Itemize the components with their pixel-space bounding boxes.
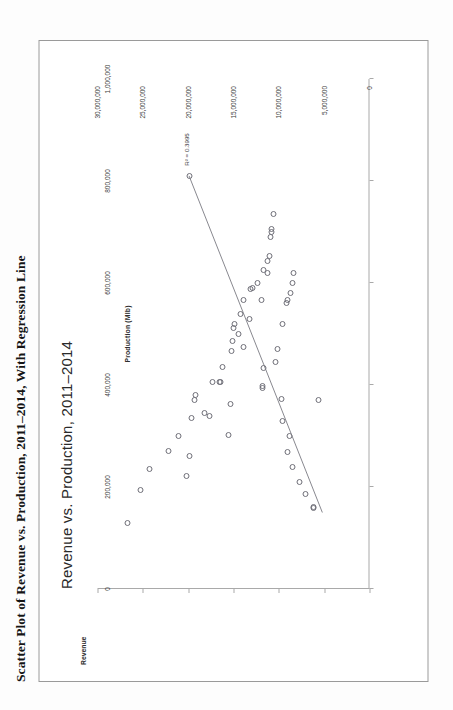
y-tick-label: 10,000,000 (275, 86, 282, 119)
r-squared-annotation: R² = 0.3995 (182, 133, 189, 166)
data-point (267, 234, 273, 240)
data-point (249, 285, 255, 291)
data-point (266, 253, 272, 259)
y-tick-label: 30,000,000 (94, 86, 101, 119)
chart-frame: Revenue vs. Production, 2011–2014 0200,0… (38, 40, 428, 682)
data-point (270, 211, 276, 217)
data-point (274, 346, 280, 352)
y-axis-title: Revenue (79, 637, 86, 665)
data-point (302, 491, 308, 497)
y-tick-mark (278, 589, 279, 593)
trendline-layer (97, 289, 247, 589)
x-tick-mark (369, 282, 373, 283)
data-point (287, 290, 293, 296)
document-title: Scatter Plot of Revenue vs. Production, … (12, 255, 28, 682)
y-tick-label: 15,000,000 (230, 86, 237, 119)
y-tick-mark (142, 589, 143, 593)
x-tick-mark (369, 180, 373, 181)
x-tick-label: 1,000,000 (103, 65, 110, 94)
y-tick-mark (188, 589, 189, 593)
data-point (289, 464, 295, 470)
data-point (296, 479, 302, 485)
data-point (264, 270, 270, 276)
x-tick-mark (369, 384, 373, 385)
data-point (289, 280, 295, 286)
y-tick-mark (233, 589, 234, 593)
data-point (279, 321, 285, 327)
y-tick-label: 25,000,000 (139, 86, 146, 119)
data-point (279, 418, 285, 424)
x-tick-label: 800,000 (103, 169, 110, 193)
y-tick-label: 5,000,000 (320, 86, 327, 115)
data-point (186, 173, 192, 179)
data-point (272, 359, 278, 365)
x-tick-mark (369, 78, 373, 79)
x-tick-mark (369, 486, 373, 487)
y-tick-label: 0 (366, 86, 373, 90)
plot-area: 0200,000400,000600,000800,0001,000,000 0… (97, 79, 369, 589)
scanned-page: Scatter Plot of Revenue vs. Production, … (0, 0, 453, 710)
data-point (254, 280, 260, 286)
x-axis-line (368, 79, 369, 589)
chart-title: Revenue vs. Production, 2011–2014 (57, 341, 74, 589)
data-point (278, 396, 284, 402)
y-tick-mark (324, 589, 325, 593)
rotated-document-stage: Scatter Plot of Revenue vs. Production, … (0, 0, 453, 710)
y-tick-mark (97, 589, 98, 593)
data-point (284, 449, 290, 455)
y-tick-mark (369, 589, 370, 593)
x-axis-title: Production (Mlb) (123, 305, 130, 362)
data-point (259, 383, 265, 389)
data-point (258, 297, 264, 303)
y-tick-label: 20,000,000 (184, 86, 191, 119)
data-point (315, 397, 321, 403)
regression-line (189, 176, 322, 513)
data-point (290, 270, 296, 276)
